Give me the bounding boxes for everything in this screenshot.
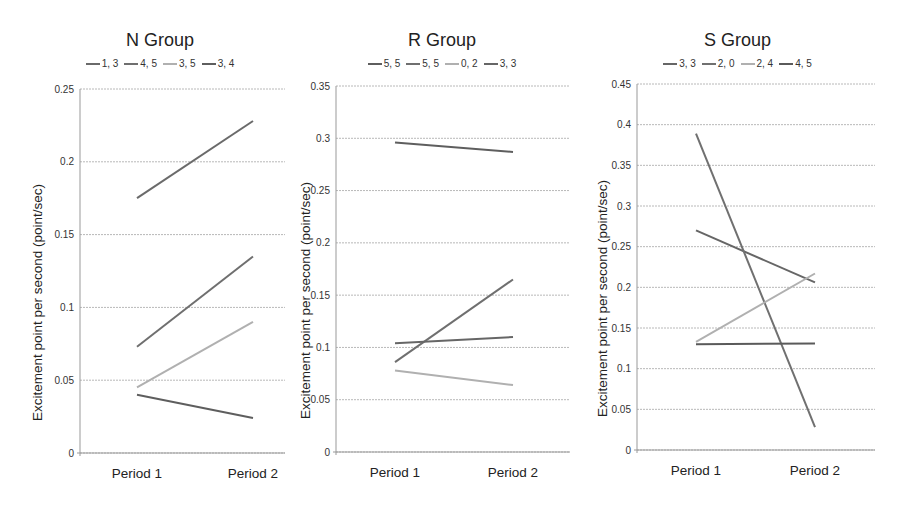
y-tick-label: 0.15 xyxy=(612,323,632,334)
y-tick-label: 0.45 xyxy=(612,79,632,90)
y-tick-label: 0.35 xyxy=(311,81,331,92)
y-tick-label: 0 xyxy=(625,445,631,456)
series-line xyxy=(137,256,253,346)
series-line xyxy=(395,337,513,343)
chart-panel-r-group: R Group 5, 55, 50, 23, 3 Excitement poin… xyxy=(300,0,600,506)
y-tick-label: 0.2 xyxy=(316,237,330,248)
y-tick-label: 0.25 xyxy=(612,241,632,252)
y-tick-label: 0.35 xyxy=(612,160,632,171)
line-chart: 00.050.10.150.20.250.30.350.40.45Period … xyxy=(600,0,905,506)
y-tick-label: 0 xyxy=(68,448,74,459)
chart-panel-n-group: N Group 1, 34, 53, 53, 4 Excitement poin… xyxy=(0,0,300,506)
series-line xyxy=(395,279,513,362)
y-tick-label: 0.4 xyxy=(617,119,631,130)
y-tick-label: 0.1 xyxy=(617,363,631,374)
y-tick-label: 0.2 xyxy=(617,282,631,293)
series-line xyxy=(395,142,513,151)
x-category-label: Period 2 xyxy=(228,466,278,481)
y-tick-label: 0.15 xyxy=(55,229,75,240)
y-tick-label: 0.05 xyxy=(55,375,75,386)
series-line xyxy=(137,395,253,418)
series-line xyxy=(696,343,815,344)
series-line xyxy=(137,121,253,198)
x-category-label: Period 1 xyxy=(370,465,420,480)
x-category-label: Period 1 xyxy=(112,466,162,481)
y-tick-label: 0.3 xyxy=(316,133,330,144)
x-category-label: Period 1 xyxy=(671,463,721,478)
series-line xyxy=(696,274,815,342)
x-category-label: Period 2 xyxy=(488,465,538,480)
series-line xyxy=(137,322,253,388)
y-tick-label: 0.25 xyxy=(55,84,75,95)
x-category-label: Period 2 xyxy=(790,463,840,478)
y-tick-label: 0.15 xyxy=(311,290,331,301)
y-tick-label: 0.1 xyxy=(60,302,74,313)
y-tick-label: 0.25 xyxy=(311,185,331,196)
series-line xyxy=(395,370,513,385)
y-tick-label: 0.3 xyxy=(617,201,631,212)
y-tick-label: 0 xyxy=(324,447,330,458)
line-chart: 00.050.10.150.20.25Period 1Period 2 xyxy=(0,0,300,506)
y-tick-label: 0.1 xyxy=(316,342,330,353)
chart-panel-s-group: S Group 3, 32, 02, 44, 5 Excitement poin… xyxy=(600,0,905,506)
y-tick-label: 0.05 xyxy=(311,394,331,405)
y-tick-label: 0.2 xyxy=(60,156,74,167)
series-line xyxy=(696,230,815,282)
series-line xyxy=(696,134,815,428)
line-chart: 00.050.10.150.20.250.30.35Period 1Period… xyxy=(300,0,600,506)
y-tick-label: 0.05 xyxy=(612,404,632,415)
